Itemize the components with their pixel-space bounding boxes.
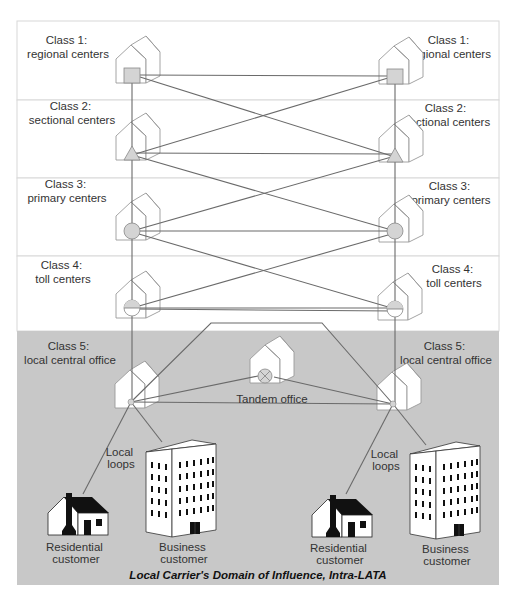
toll-center-right-halfcircle-icon [387, 301, 403, 317]
tandem-office-label: Tandem office [236, 393, 307, 405]
telephone-hierarchy-diagram: Class 1: regional centers Class 1: regio… [0, 0, 517, 602]
business-customer-left-icon [146, 440, 216, 537]
local-loops-right-label: Local loops [371, 448, 402, 472]
business-customer-left-label: Business customer [159, 541, 209, 565]
business-customer-right-label: Business customer [422, 543, 472, 567]
band-class4 [17, 256, 499, 331]
residential-customer-left-label: Residential customer [46, 541, 106, 565]
toll-center-left-halfcircle-icon [124, 300, 140, 316]
primary-center-left-circle-icon [124, 223, 140, 239]
band-class1 [17, 21, 499, 100]
local-office-left-dot-icon [128, 399, 134, 405]
primary-center-right-circle-icon [387, 223, 403, 239]
business-customer-right-icon [410, 442, 480, 539]
local-office-right-dot-icon [390, 401, 396, 407]
local-loops-left-label: Local loops [106, 446, 137, 470]
residential-customer-right-label: Residential customer [310, 542, 370, 566]
domain-caption: Local Carrier's Domain of Influence, Int… [129, 569, 386, 581]
regional-center-right-square-icon [387, 69, 403, 84]
regional-center-left-square-icon [124, 68, 140, 83]
tandem-switch-x-circle-icon [258, 369, 272, 383]
